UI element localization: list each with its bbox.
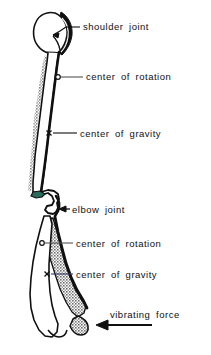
label-vibrating-force: vibrating force [110, 310, 180, 320]
label-elbow-joint: elbow joint [72, 205, 125, 215]
label-center-of-rotation-lower: center of rotation [76, 239, 161, 249]
label-center-of-gravity-lower: center of gravity [76, 270, 157, 280]
distal-forearm-end [70, 316, 88, 335]
vibrating-force-arrowhead-icon [96, 320, 108, 330]
center-of-rotation-marker-lower [40, 241, 45, 246]
elbow-joint-cartilage [31, 191, 45, 198]
label-shoulder-joint: shoulder joint [83, 22, 149, 32]
bone-diagram [0, 0, 211, 355]
label-center-of-gravity-upper: center of gravity [80, 129, 161, 139]
label-center-of-rotation-upper: center of rotation [86, 72, 171, 82]
center-of-rotation-marker-upper [56, 75, 61, 80]
anatomy-figure: shoulder joint center of rotation center… [0, 0, 211, 355]
